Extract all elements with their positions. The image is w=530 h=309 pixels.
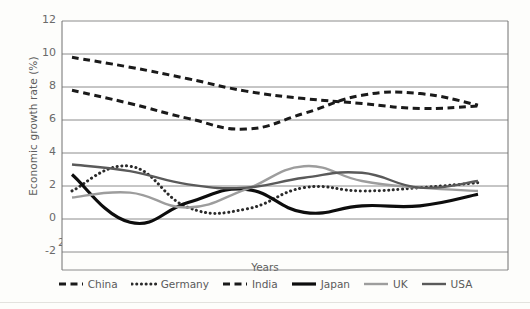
dotted-line-swatch bbox=[131, 279, 157, 289]
dashed-line-swatch bbox=[222, 279, 248, 289]
legend-item-uk[interactable]: UK bbox=[363, 278, 408, 290]
legend-label: USA bbox=[451, 278, 473, 290]
legend-item-china[interactable]: China bbox=[58, 278, 118, 290]
legend-item-usa[interactable]: USA bbox=[421, 278, 473, 290]
legend-label: Germany bbox=[161, 278, 209, 290]
economic-growth-rate-line-chart: Economic growth rate (%) Years 121086420… bbox=[0, 0, 530, 309]
legend-item-india[interactable]: India bbox=[222, 278, 278, 290]
legend-label: Japan bbox=[321, 278, 350, 290]
legend-label: UK bbox=[393, 278, 408, 290]
legend-item-germany[interactable]: Germany bbox=[131, 278, 209, 290]
solid-line-swatch bbox=[291, 279, 317, 289]
dashed-line-swatch bbox=[58, 279, 84, 289]
plot-area bbox=[0, 0, 530, 309]
solid-line-swatch bbox=[363, 279, 389, 289]
legend-label: China bbox=[88, 278, 118, 290]
chart-legend: ChinaGermanyIndiaJapanUKUSA bbox=[0, 278, 530, 290]
footer-divider bbox=[0, 302, 530, 303]
legend-label: India bbox=[252, 278, 278, 290]
solid-line-swatch bbox=[421, 279, 447, 289]
legend-item-japan[interactable]: Japan bbox=[291, 278, 350, 290]
